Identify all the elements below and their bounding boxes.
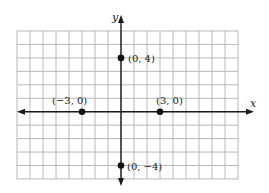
point-label-0-4: (0, 4): [128, 53, 155, 64]
point-0-neg4: [118, 162, 125, 169]
x-axis-label: x: [250, 97, 257, 110]
y-axis-up-arrow-icon: [118, 15, 124, 23]
y-axis-label: y: [111, 11, 119, 24]
point-neg3-0: [79, 108, 86, 115]
coordinate-plane-figure: x y (0, 4) (−3, 0) (3, 0) (0, −4): [0, 0, 269, 193]
point-label-3-0: (3, 0): [156, 95, 183, 106]
point-label-0-neg4: (0, −4): [127, 161, 162, 172]
point-3-0: [157, 108, 164, 115]
coordinate-plane: x y (0, 4) (−3, 0) (3, 0) (0, −4): [0, 0, 269, 193]
point-label-neg3-0: (−3, 0): [52, 95, 87, 106]
y-axis-down-arrow-icon: [118, 178, 124, 186]
point-0-4: [118, 55, 125, 62]
